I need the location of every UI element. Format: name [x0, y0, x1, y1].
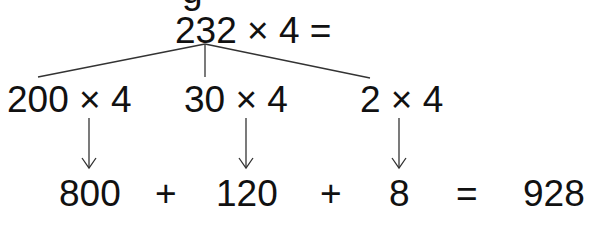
partial-product-1: 800: [59, 175, 121, 212]
plus-sign-1: +: [155, 175, 177, 212]
branch-expression-2: 30 × 4: [184, 81, 288, 118]
branch-expression-3: 2 × 4: [360, 81, 443, 118]
total-result: 928: [523, 175, 585, 212]
partial-product-3: 8: [389, 175, 410, 212]
arrow-down-icon: [82, 118, 96, 168]
equals-sign: =: [456, 175, 478, 212]
branch-line-right: [205, 44, 370, 78]
arrow-down-icon: [239, 118, 253, 168]
partial-product-2: 120: [216, 175, 278, 212]
branch-line-left: [38, 44, 205, 77]
plus-sign-2: +: [320, 175, 342, 212]
branch-expression-1: 200 × 4: [7, 81, 131, 118]
arrow-down-icon: [392, 118, 406, 168]
